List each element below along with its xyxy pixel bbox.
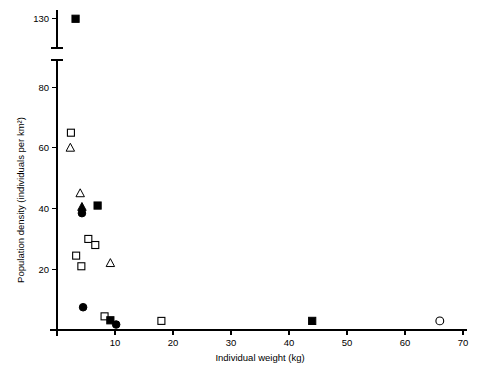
data-point-open-square [78,263,85,270]
data-point-filled-circle [112,321,120,329]
data-point-open-triangle [106,259,114,267]
data-point-open-circle [436,317,444,325]
data-point-open-square [158,317,165,324]
x-tick-label: 60 [400,337,411,348]
x-axis-title: Individual weight (kg) [215,352,304,363]
y-tick-label: 60 [38,142,49,153]
data-point-open-square [73,252,80,259]
y-tick-label: 80 [38,82,49,93]
x-tick-label: 50 [342,337,353,348]
data-point-filled-square [309,317,316,324]
x-tick-label: 40 [284,337,295,348]
data-point-open-square [85,235,92,242]
data-point-open-triangle [66,143,74,151]
scatter-plot-figure: 10203040506070Individual weight (kg)2040… [0,0,501,372]
plot-canvas: 10203040506070Individual weight (kg)2040… [0,0,501,372]
data-points-group [66,15,444,328]
y-tick-label: 130 [33,13,49,24]
x-tick-label: 70 [458,337,469,348]
data-point-open-square [67,129,74,136]
data-point-open-triangle [76,189,84,197]
x-tick-label: 20 [168,337,179,348]
data-point-filled-square [94,202,101,209]
x-tick-label: 30 [226,337,237,348]
y-tick-label: 40 [38,203,49,214]
x-tick-label: 10 [110,337,121,348]
data-point-open-square [92,242,99,249]
y-axis-title: Population density (individuals per km²) [15,117,26,283]
y-tick-label: 20 [38,264,49,275]
data-point-filled-circle [79,303,87,311]
data-point-filled-square [72,15,79,22]
data-point-filled-circle [78,209,86,217]
